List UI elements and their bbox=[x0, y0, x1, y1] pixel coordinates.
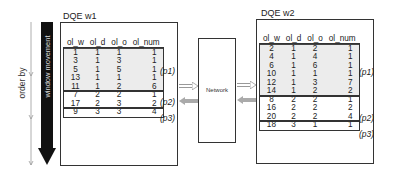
partition-p2: 7221 17232 bbox=[64, 91, 163, 108]
cell: 1 bbox=[326, 70, 359, 79]
table-row: 11126 bbox=[64, 83, 163, 92]
arrow-network-to-w1 bbox=[183, 99, 198, 103]
cell: 3 bbox=[283, 121, 304, 130]
network-label: Network bbox=[198, 87, 236, 93]
column-header: ol_w bbox=[260, 35, 283, 44]
cell: 6 bbox=[130, 83, 163, 92]
cell: 1 bbox=[326, 53, 359, 62]
cell: 3 bbox=[87, 108, 108, 117]
order-by-label: order by bbox=[17, 58, 27, 108]
cell: 4 bbox=[130, 108, 163, 117]
partition-label-p3: (p3) bbox=[359, 129, 374, 139]
cell: 1 bbox=[326, 96, 359, 105]
arrowhead-left-icon bbox=[178, 97, 185, 105]
worker-w1-title: DQE w1 bbox=[63, 11, 97, 21]
partition-label-p1: (p1) bbox=[160, 66, 175, 76]
worker-w2-title: DQE w2 bbox=[261, 8, 295, 18]
table-header-row: ol_w ol_d ol_o ol_num bbox=[260, 35, 359, 44]
cell: 9 bbox=[64, 108, 87, 117]
cell: 2 bbox=[326, 87, 359, 96]
partition-p3: 18311 bbox=[260, 121, 359, 130]
cell: 1 bbox=[326, 62, 359, 71]
cell: 3 bbox=[108, 108, 129, 117]
column-header: ol_o bbox=[304, 35, 325, 44]
table-row: 2121 bbox=[260, 44, 359, 53]
column-header: ol_d bbox=[283, 35, 304, 44]
cell: 7 bbox=[326, 79, 359, 88]
table-row: 4141 bbox=[260, 53, 359, 62]
table-row: 14122 bbox=[260, 87, 359, 96]
arrowhead-left-icon bbox=[236, 96, 243, 104]
table-row: 9334 bbox=[64, 108, 163, 117]
column-header: ol_d bbox=[87, 39, 108, 48]
partition-p1: 2121 4141 6161 10111 12137 14122 bbox=[260, 44, 359, 96]
cell: 1 bbox=[130, 48, 163, 57]
cell: 1 bbox=[130, 91, 163, 100]
worker-w2-table: ol_w ol_d ol_o ol_num 2121 4141 6161 101… bbox=[260, 35, 359, 130]
cell: 1 bbox=[130, 74, 163, 83]
partition-p2: 8221 16222 20224 bbox=[260, 96, 359, 122]
cell: 1 bbox=[130, 66, 163, 75]
partition-p1: 1111 3131 5151 13111 11126 bbox=[64, 48, 163, 91]
cell: 1 bbox=[130, 57, 163, 66]
column-header: ol_o bbox=[108, 39, 129, 48]
column-header: ol_w bbox=[64, 39, 87, 48]
cell: 18 bbox=[260, 121, 283, 130]
cell: 1 bbox=[326, 121, 359, 130]
partition-label-p1: (p1) bbox=[359, 67, 374, 77]
cell: 2 bbox=[326, 104, 359, 113]
window-movement-label: window movement bbox=[43, 32, 52, 102]
table-header-row: ol_w ol_d ol_o ol_num bbox=[64, 39, 163, 48]
partition-label-p3: (p3) bbox=[160, 113, 175, 123]
worker-w1-table: ol_w ol_d ol_o ol_num 1111 3131 5151 131… bbox=[64, 39, 163, 117]
partition-label-p2: (p2) bbox=[359, 113, 374, 123]
column-header: ol_num bbox=[326, 35, 359, 44]
cell: 4 bbox=[326, 113, 359, 122]
table-row: 18311 bbox=[260, 121, 359, 130]
cell: 2 bbox=[130, 100, 163, 109]
cell: 1 bbox=[304, 121, 325, 130]
table-row: 17232 bbox=[64, 100, 163, 109]
column-header: ol_num bbox=[130, 39, 163, 48]
table-row: 3131 bbox=[64, 57, 163, 66]
cell: 1 bbox=[326, 44, 359, 53]
table-row: 1111 bbox=[64, 48, 163, 57]
partition-p3: 9334 bbox=[64, 108, 163, 117]
arrow-w2-to-network bbox=[241, 98, 256, 102]
partition-label-p2: (p2) bbox=[160, 97, 175, 107]
